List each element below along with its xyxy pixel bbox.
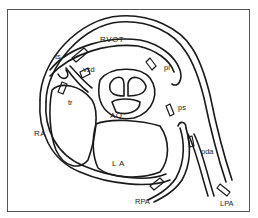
probe-icon-tr	[58, 82, 67, 94]
label-tr: tr	[68, 99, 73, 107]
label-vsd: vsd	[83, 66, 95, 74]
label-ao: AO	[110, 112, 123, 120]
pulmonary-trunk	[148, 122, 214, 202]
heart-cross-section	[0, 0, 258, 218]
label-la: L A	[112, 160, 125, 168]
label-rvot: RVOT	[100, 36, 124, 44]
label-rpa: RPA	[135, 198, 150, 206]
probe-icon-ps	[166, 104, 174, 116]
label-ra: RA	[34, 130, 46, 138]
label-pda: pda	[201, 148, 214, 156]
label-pi: pi	[164, 64, 170, 72]
la-chamber	[93, 120, 167, 177]
probe-icon-pi	[146, 58, 156, 70]
ra-chamber	[50, 85, 96, 166]
probe-icon-lpa	[217, 184, 230, 196]
aortic-valve	[99, 69, 155, 118]
label-ps: ps	[178, 104, 186, 112]
label-ts: ts	[55, 53, 61, 61]
label-lpa: LPA	[220, 200, 234, 208]
